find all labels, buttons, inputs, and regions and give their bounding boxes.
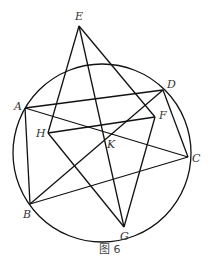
segment-DC <box>163 90 188 157</box>
point-label-F: F <box>158 109 167 122</box>
figure-caption: 图 6 <box>99 243 121 256</box>
segment-EF <box>79 26 155 117</box>
point-label-E: E <box>74 10 83 23</box>
segments <box>25 26 188 227</box>
point-label-C: C <box>192 152 201 165</box>
point-labels: ABCDEFGHK <box>13 10 201 243</box>
circumcircle <box>13 64 191 242</box>
point-label-D: D <box>166 78 176 91</box>
geometry-figure: ABCDEFGHK 图 6 <box>0 0 210 270</box>
point-label-K: K <box>106 138 116 151</box>
point-label-H: H <box>35 127 46 140</box>
point-label-B: B <box>22 208 31 221</box>
point-label-A: A <box>13 100 22 113</box>
point-label-G: G <box>120 230 129 243</box>
segment-AB <box>25 108 30 204</box>
segment-BC <box>30 157 188 204</box>
